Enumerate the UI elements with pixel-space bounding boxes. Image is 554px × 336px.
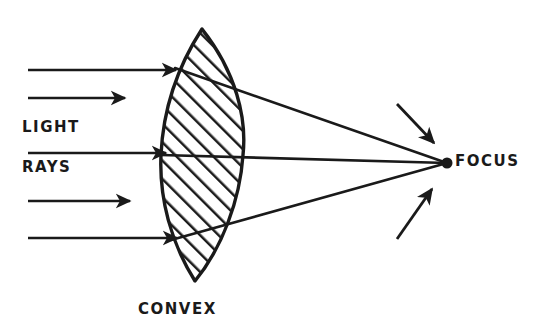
light-label: LIGHT	[22, 117, 80, 136]
rays-label: RAYS	[22, 157, 71, 176]
focus-label: FOCUS	[455, 151, 520, 170]
lens-diagram-canvas: LIGHT RAYS CONVEX FOCUS	[0, 0, 554, 336]
focus-pointer-upper	[397, 104, 434, 143]
convex-label: CONVEX	[138, 299, 217, 318]
focus-pointer-lower	[397, 189, 432, 239]
incoming-light-rays	[28, 70, 177, 238]
focus-point	[442, 158, 453, 169]
